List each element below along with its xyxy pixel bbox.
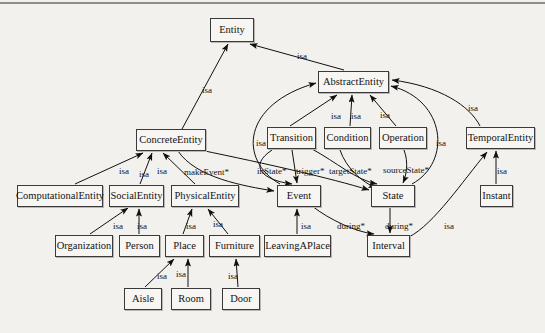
node-instant[interactable]: Instant xyxy=(480,185,513,207)
edge-label: isa xyxy=(157,167,167,176)
edge-label: isa xyxy=(202,86,212,95)
edge-label: targetState* xyxy=(329,167,372,176)
node-state[interactable]: State xyxy=(371,185,415,207)
node-room[interactable]: Room xyxy=(171,288,211,310)
node-label: Door xyxy=(230,294,252,305)
edge-label: isa xyxy=(331,112,341,121)
node-label: State xyxy=(383,191,404,202)
edge-label: isa xyxy=(444,222,454,231)
node-label: TemporalEntity xyxy=(468,133,534,144)
node-label: Event xyxy=(287,191,312,202)
node-door[interactable]: Door xyxy=(222,288,260,310)
edge-label: isa xyxy=(351,112,361,121)
edge-label: isa xyxy=(256,139,266,148)
node-operation[interactable]: Operation xyxy=(379,127,427,149)
node-label: PhysicalEntity xyxy=(174,191,235,202)
node-label: Person xyxy=(125,241,154,252)
node-label: Entity xyxy=(219,25,245,36)
node-label: Aisle xyxy=(132,294,154,305)
node-social-entity[interactable]: SocialEntity xyxy=(109,185,164,207)
node-person[interactable]: Person xyxy=(119,235,160,257)
edge-label: isa xyxy=(186,222,196,231)
edge-label: isa xyxy=(301,222,311,231)
node-label: Room xyxy=(178,294,204,305)
node-transition[interactable]: Transition xyxy=(267,127,316,149)
edge-label: isa xyxy=(113,222,123,231)
node-label: Organization xyxy=(57,241,112,252)
diagram-canvas: Entity AbstractEntity ConcreteEntity Tra… xyxy=(0,0,545,333)
edge-label: isa xyxy=(436,139,446,148)
node-furniture[interactable]: Furniture xyxy=(209,235,260,257)
edge-label: inState* xyxy=(257,167,287,176)
edge-label: isa xyxy=(497,167,507,176)
node-label: ConcreteEntity xyxy=(139,135,203,146)
node-concrete-entity[interactable]: ConcreteEntity xyxy=(136,129,206,151)
edge-label: isa xyxy=(228,272,238,281)
node-label: LeavingAPlace xyxy=(265,241,330,252)
node-interval[interactable]: Interval xyxy=(367,235,410,257)
node-label: Operation xyxy=(382,133,424,144)
edge-transition-isa-abstract-entity xyxy=(290,95,337,126)
node-label: Instant xyxy=(482,191,511,202)
node-condition[interactable]: Condition xyxy=(324,127,371,149)
edge-computational-entity-isa-concrete-entity xyxy=(75,153,143,184)
node-label: Place xyxy=(173,241,196,252)
edge-label: isa xyxy=(119,167,129,176)
node-temporal-entity[interactable]: TemporalEntity xyxy=(466,127,535,149)
edge-label: makeEvent* xyxy=(184,168,229,177)
node-computational-entity[interactable]: ComputationalEntity xyxy=(17,185,103,207)
node-label: Condition xyxy=(326,133,368,144)
node-place[interactable]: Place xyxy=(165,235,204,257)
edge-temporal-entity-isa-abstract-entity xyxy=(392,80,480,126)
edge-label: isa xyxy=(139,170,149,179)
edge-label: sourceState* xyxy=(383,166,429,175)
edge-label: during* xyxy=(337,222,365,231)
node-physical-entity[interactable]: PhysicalEntity xyxy=(171,185,239,207)
node-organization[interactable]: Organization xyxy=(55,235,113,257)
edge-label: isa xyxy=(176,270,186,279)
edge-label: trigger* xyxy=(296,167,325,176)
node-label: AbstractEntity xyxy=(323,77,384,88)
node-event[interactable]: Event xyxy=(277,185,321,207)
node-abstract-entity[interactable]: AbstractEntity xyxy=(318,71,389,93)
node-aisle[interactable]: Aisle xyxy=(124,288,162,310)
edge-label: isa xyxy=(468,104,478,113)
edge-label: isa xyxy=(213,220,223,229)
node-label: SocialEntity xyxy=(111,191,163,202)
edge-label: isa xyxy=(137,222,147,231)
node-label: ComputationalEntity xyxy=(16,191,104,202)
edge-label: isa xyxy=(157,272,167,281)
node-label: Transition xyxy=(270,133,313,144)
edge-label: isa xyxy=(297,52,307,61)
edge-label: isa xyxy=(380,111,390,120)
node-entity[interactable]: Entity xyxy=(210,18,254,42)
node-leaving-a-place[interactable]: LeavingAPlace xyxy=(264,235,331,257)
node-label: Interval xyxy=(372,241,405,252)
edge-label: during* xyxy=(385,222,413,231)
node-label: Furniture xyxy=(215,241,254,252)
